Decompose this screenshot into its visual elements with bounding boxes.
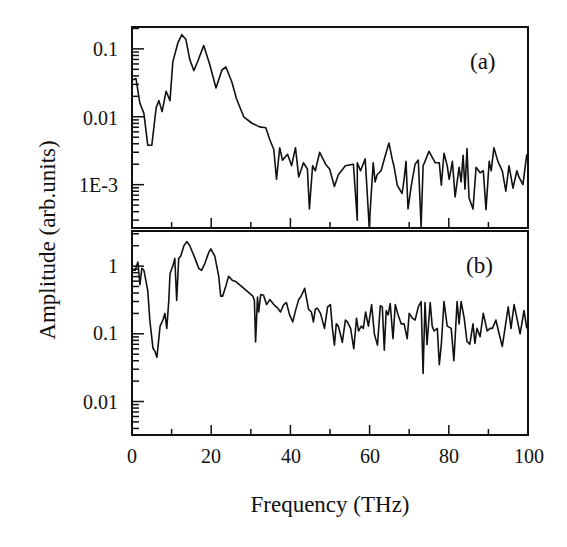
panel-a-y-tick-label-0.1: 0.1 — [93, 38, 118, 60]
panel-a-y-tick-label-1e-3: 1E-3 — [79, 174, 118, 196]
panel-a-x-ticks — [132, 218, 528, 228]
figure: 0.1 0.01 1E-3 (a) 1 0.1 0.01 (b) 0 20 40… — [0, 0, 567, 547]
panel-a-y-ticks — [132, 28, 144, 220]
panel-b: 1 0.1 0.01 (b) — [83, 231, 528, 435]
panel-b-y-tick-label-1: 1 — [108, 255, 118, 277]
x-tick-label-60: 60 — [360, 445, 380, 467]
panel-a-y-tick-label-0.01: 0.01 — [83, 107, 118, 129]
x-tick-label-0: 0 — [127, 445, 137, 467]
x-tick-label-100: 100 — [514, 445, 544, 467]
panel-a-spectrum-line — [132, 35, 527, 227]
x-tick-label-80: 80 — [439, 445, 459, 467]
panel-b-label: (b) — [466, 253, 493, 278]
y-axis-title: Amplitude (arb.units) — [35, 140, 60, 339]
panel-b-y-tick-label-0.1: 0.1 — [93, 322, 118, 344]
panel-a-label: (a) — [470, 49, 496, 74]
x-tick-labels: 0 20 40 60 80 100 — [127, 445, 544, 467]
panel-b-y-tick-label-0.01: 0.01 — [83, 391, 118, 413]
x-tick-label-20: 20 — [201, 445, 221, 467]
panel-a: 0.1 0.01 1E-3 (a) — [79, 27, 528, 228]
x-tick-label-40: 40 — [281, 445, 301, 467]
x-axis-title: Frequency (THz) — [250, 492, 409, 517]
panel-b-x-ticks — [132, 425, 528, 435]
